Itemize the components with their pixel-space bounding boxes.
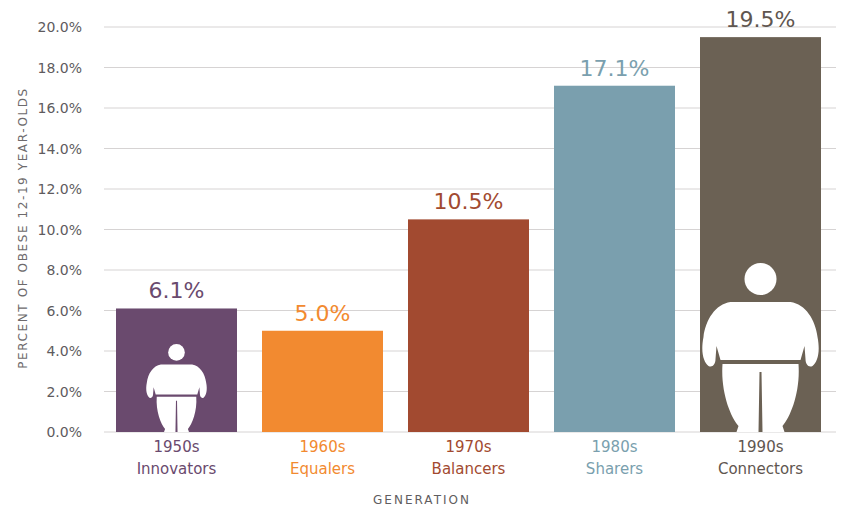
value-label: 17.1% xyxy=(580,56,650,81)
bar-chart: 0.0%2.0%4.0%6.0%8.0%10.0%12.0%14.0%16.0%… xyxy=(0,0,844,515)
bars xyxy=(116,37,821,432)
y-tick-label: 12.0% xyxy=(38,181,82,197)
y-tick-label: 2.0% xyxy=(46,384,82,400)
x-axis-labels: 1950sInnovators1960sEqualers1970sBalance… xyxy=(137,438,804,478)
value-label: 6.1% xyxy=(149,278,205,303)
bar-1990s xyxy=(700,37,821,432)
y-tick-label: 0.0% xyxy=(46,424,82,440)
x-tick-decade: 1990s xyxy=(738,438,784,456)
x-tick-generation: Balancers xyxy=(432,460,506,478)
y-tick-label: 20.0% xyxy=(38,19,82,35)
value-label: 5.0% xyxy=(295,301,351,326)
x-tick-generation: Innovators xyxy=(137,460,217,478)
y-tick-label: 4.0% xyxy=(46,343,82,359)
x-tick-decade: 1980s xyxy=(592,438,638,456)
value-label: 19.5% xyxy=(726,7,796,32)
x-tick-generation: Sharers xyxy=(586,460,643,478)
x-axis-title: GENERATION xyxy=(0,493,844,507)
x-tick-decade: 1950s xyxy=(154,438,200,456)
y-tick-label: 6.0% xyxy=(46,303,82,319)
x-tick-decade: 1970s xyxy=(446,438,492,456)
x-tick-generation: Equalers xyxy=(290,460,355,478)
bar-1960s xyxy=(262,331,383,432)
bar-1970s xyxy=(408,219,529,432)
value-label: 10.5% xyxy=(434,189,504,214)
chart-canvas: 0.0%2.0%4.0%6.0%8.0%10.0%12.0%14.0%16.0%… xyxy=(0,0,844,515)
y-tick-label: 8.0% xyxy=(46,262,82,278)
y-tick-label: 10.0% xyxy=(38,222,82,238)
y-tick-label: 18.0% xyxy=(38,60,82,76)
y-axis-title: PERCENT OF OBESE 12-19 YEAR-OLDS xyxy=(16,87,30,369)
x-tick-decade: 1960s xyxy=(300,438,346,456)
y-axis-ticks: 0.0%2.0%4.0%6.0%8.0%10.0%12.0%14.0%16.0%… xyxy=(38,19,82,440)
bar-1980s xyxy=(554,86,675,432)
y-tick-label: 14.0% xyxy=(38,141,82,157)
x-tick-generation: Connectors xyxy=(718,460,803,478)
y-tick-label: 16.0% xyxy=(38,100,82,116)
